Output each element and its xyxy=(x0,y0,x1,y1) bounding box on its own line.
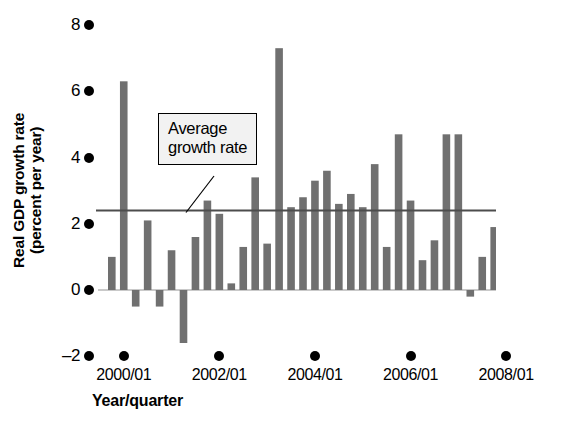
x-axis-tick-marker xyxy=(310,351,320,361)
bar xyxy=(216,214,224,290)
bar xyxy=(335,204,343,290)
x-axis-tick-marker xyxy=(406,351,416,361)
x-axis-title: Year/quarter xyxy=(92,392,183,410)
bar xyxy=(490,227,496,290)
y-axis-tick-label: 0 xyxy=(46,280,80,300)
bar xyxy=(263,244,271,290)
bar xyxy=(180,290,188,343)
bar xyxy=(144,220,152,290)
bar xyxy=(383,247,391,290)
bar xyxy=(311,181,319,290)
x-axis-tick-label: 2002/01 xyxy=(192,366,247,384)
y-axis-tick-marker xyxy=(84,219,94,229)
bar xyxy=(192,237,200,290)
bar xyxy=(239,247,247,290)
bar xyxy=(407,201,415,290)
y-axis-tick-marker xyxy=(84,20,94,30)
bar xyxy=(168,250,176,290)
y-axis-title-line1: Real GDP growth rate xyxy=(11,112,28,267)
y-axis-tick-marker xyxy=(84,351,94,361)
y-axis-tick-label: 6 xyxy=(46,81,80,101)
average-growth-rate-callout: Average growth rate xyxy=(158,113,257,165)
bar xyxy=(204,201,212,290)
y-axis-tick-label: 2 xyxy=(46,214,80,234)
bar xyxy=(228,283,236,290)
callout-line2: growth rate xyxy=(168,138,247,156)
bar xyxy=(120,81,128,290)
y-axis-tick-label: –2 xyxy=(46,346,80,366)
bar xyxy=(395,134,403,290)
bar xyxy=(132,290,140,307)
bar xyxy=(431,240,439,290)
x-axis-tick-label: 2000/01 xyxy=(96,366,151,384)
bar xyxy=(359,207,367,290)
bar xyxy=(347,194,355,290)
bar xyxy=(443,134,451,290)
x-axis-tick-label: 2004/01 xyxy=(287,366,342,384)
y-axis-tick-marker xyxy=(84,86,94,96)
bar xyxy=(275,48,283,290)
bar xyxy=(323,171,331,290)
x-axis-tick-label: 2006/01 xyxy=(383,366,438,384)
x-axis-tick-marker xyxy=(214,351,224,361)
y-axis-tick-marker xyxy=(84,285,94,295)
bar xyxy=(251,177,259,290)
bar xyxy=(156,290,164,307)
bar xyxy=(467,290,475,297)
y-axis-title-line2: (percent per year) xyxy=(28,126,45,253)
y-axis-tick-label: 4 xyxy=(46,148,80,168)
callout-line1: Average xyxy=(168,119,227,137)
y-axis-tick-label: 8 xyxy=(46,15,80,35)
x-axis-tick-label: 2008/01 xyxy=(479,366,534,384)
bar xyxy=(478,257,486,290)
bar xyxy=(287,207,295,290)
x-axis-tick-marker xyxy=(501,351,511,361)
x-axis-tick-marker xyxy=(119,351,129,361)
bar xyxy=(371,164,379,290)
gdp-growth-rate-chart: Real GDP growth rate (percent per year) … xyxy=(0,0,580,433)
bar xyxy=(455,134,463,290)
bar xyxy=(108,257,116,290)
y-axis-tick-labels: 86420–2 xyxy=(46,0,80,433)
y-axis-tick-marker xyxy=(84,153,94,163)
bar xyxy=(419,260,427,290)
